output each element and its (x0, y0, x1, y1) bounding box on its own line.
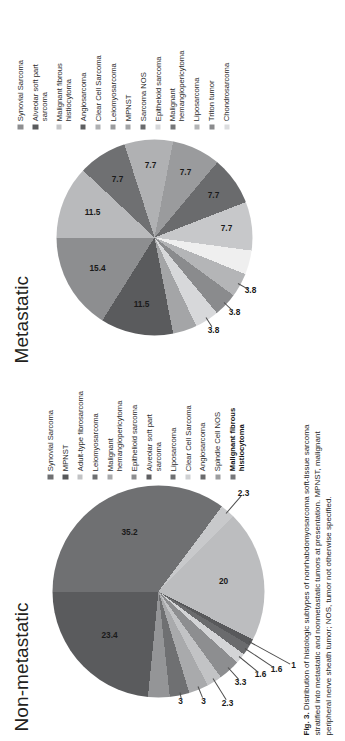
legend-item: Liposarcoma (192, 19, 201, 129)
legend-item: Leiomyosarcoma (109, 19, 118, 129)
pie-slice-value-label: 7.7 (111, 175, 123, 183)
legend-item: Chondrosarcoma (222, 19, 231, 129)
figure-caption: Fig. 3. Distribution of histologic subty… (300, 405, 333, 735)
legend-swatch-icon (230, 474, 235, 479)
pie-slice-value-label: 11.5 (84, 208, 100, 216)
legend-item-label: Triton tumor (207, 80, 216, 121)
legend-swatch-icon (224, 124, 229, 129)
legend-item-label: Clear Cell Sarcoma (184, 405, 193, 471)
pie-slice-value-label: 23.4 (101, 631, 117, 639)
pie-body (52, 485, 264, 697)
legend-item: Triton tumor (207, 19, 216, 129)
legend-item: Alveolar soft part sarcoma (145, 379, 163, 479)
legend-item-label: Spindle Cell NOS (213, 412, 222, 471)
legend-item: Leiomyosarcoma (91, 379, 100, 479)
pie-slice-value-label: 15.4 (89, 264, 105, 272)
legend-item: Alveolar soft part sarcoma (31, 19, 49, 129)
legend-item: Epithelioid sarcoma (130, 379, 139, 479)
legend-swatch-icon (170, 474, 175, 479)
pie-slice-value-label: 20 (218, 577, 227, 585)
legend-item-label: Liposarcoma (169, 427, 178, 470)
legend-swatch-icon (170, 124, 175, 129)
legend-swatch-icon (209, 124, 214, 129)
label-leader-line (227, 667, 239, 680)
legend-item-label: Alveolar soft part sarcoma (31, 35, 49, 121)
legend-swatch-icon (107, 474, 112, 479)
legend-swatch-icon (56, 124, 61, 129)
pie-slice-value-label: 35.2 (120, 528, 136, 536)
legend-item: Malignant hemangiopericytoma (168, 19, 186, 129)
legend-item: Synovial Sarcoma (16, 19, 25, 129)
pie-slice-value-label: 11.5 (134, 300, 150, 308)
legend-swatch-icon (140, 124, 145, 129)
legend-item-label: Malignant hemangiopericytoma (168, 50, 186, 121)
label-leader-line (212, 678, 226, 699)
legend-item: Epitheloid sarcoma (154, 19, 163, 129)
legend-item-label: MPNST (124, 94, 133, 121)
legend-swatch-icon (146, 474, 151, 479)
pie-slice-value-label: 3 (178, 697, 183, 705)
legend-item: Angiosarcoma (79, 19, 88, 129)
panel-metastatic: Metastatic 11.57.77.77.77.77.73.83.83.81… (0, 4, 345, 369)
legend-item-label: Chondrosarcoma (222, 62, 231, 120)
legend-item-label: Leiomyosarcoma (91, 413, 100, 471)
legend-item-label: Malignant hemangiopericytoma (106, 400, 124, 471)
legend-swatch-icon (200, 474, 205, 479)
legend-swatch-icon (131, 474, 136, 479)
pie-chart-metastatic: 11.57.77.77.77.77.73.83.83.811.515.4 (56, 139, 252, 335)
legend-item-label: Leiomyosarcoma (109, 63, 118, 121)
legend-item: Spindle Cell NOS (213, 379, 222, 479)
legend-item-label: Malignant fibrous histiocytoma (228, 385, 246, 471)
legend-item: Liposarcoma (169, 379, 178, 479)
legend-item: Clear Cell Sarcoma (94, 19, 103, 129)
legend-swatch-icon (32, 124, 37, 129)
legend-item: Synovial Sarcoma (46, 379, 55, 479)
legend-swatch-icon (92, 474, 97, 479)
pie-slice-value-label: 3.8 (207, 326, 219, 334)
legend-swatch-icon (194, 124, 199, 129)
legend-item: Malignant fibrous histiocytoma (55, 19, 73, 129)
panel-title-metastatic: Metastatic (10, 275, 32, 363)
legend-swatch-icon (125, 124, 130, 129)
legend-item: MPNST (61, 379, 70, 479)
pie-slice-value-label: 7.7 (220, 224, 232, 232)
legend-swatch-icon (62, 474, 67, 479)
legend-item-label: Epithelioid sarcoma (130, 404, 139, 470)
caption-label: Fig. 3. (301, 712, 310, 735)
panel-title-non-metastatic: Non-metastatic (10, 602, 32, 731)
pie-slice-value-label: 2.3 (222, 698, 234, 706)
legend-item: Sarcoma NOS (139, 19, 148, 129)
figure-rotated-content: Non-metastatic 35.22.32011.61.63.32.3332… (0, 0, 345, 741)
legend-swatch-icon (17, 124, 22, 129)
caption-text: Distribution of histologic subtypes of n… (301, 424, 332, 735)
legend-swatch-icon (110, 124, 115, 129)
legend-swatch-icon (77, 474, 82, 479)
legend-item-label: Malignant fibrous histiocytoma (55, 63, 73, 121)
legend-item: Malignant fibrous histiocytoma (228, 379, 246, 479)
legend-swatch-icon (185, 474, 190, 479)
legend-swatch-icon (47, 474, 52, 479)
pie-slice-value-label: 7.7 (207, 191, 219, 199)
legend-item: MPNST (124, 19, 133, 129)
legend-swatch-icon (215, 474, 220, 479)
pie-slice-value-label: 3.3 (234, 678, 246, 686)
legend-item-label: Clear Cell Sarcoma (94, 55, 103, 121)
pie-slice-value-label: 7.7 (179, 167, 191, 175)
legend-item-label: Adult-type fibrosarcoma (76, 390, 85, 470)
legend-item-label: Angiosarcoma (79, 72, 88, 121)
legend-non-metastatic: Synovial SarcomaMPNSTAdult-type fibrosar… (46, 379, 252, 479)
legend-item: Adult-type fibrosarcoma (76, 379, 85, 479)
legend-swatch-icon (80, 124, 85, 129)
pie-slice-value-label: 1 (290, 661, 295, 669)
label-leader-line (248, 640, 290, 663)
legend-item-label: Epitheloid sarcoma (154, 56, 163, 121)
legend-item: Malignant hemangiopericytoma (106, 379, 124, 479)
pie-slice-value-label: 7.7 (144, 160, 156, 168)
legend-item-label: Synovial Sarcoma (46, 409, 55, 470)
legend-swatch-icon (95, 124, 100, 129)
legend-item-label: Angiosarcoma (198, 422, 207, 471)
legend-item-label: Sarcoma NOS (139, 72, 148, 121)
figure-canvas: Non-metastatic 35.22.32011.61.63.32.3332… (0, 0, 345, 741)
legend-item-label: MPNST (61, 444, 70, 471)
label-leader-line (225, 496, 240, 514)
